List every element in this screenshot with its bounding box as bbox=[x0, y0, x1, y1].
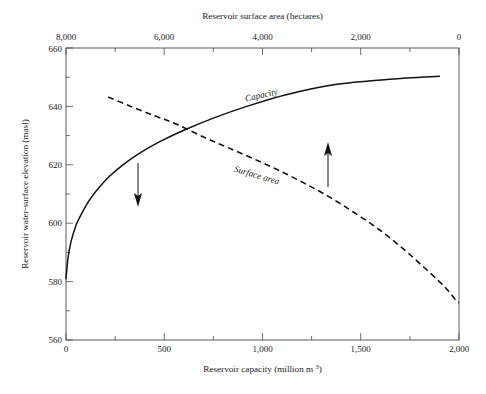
left-tick-label-660: 660 bbox=[49, 44, 63, 54]
left-tick-label-560: 560 bbox=[49, 335, 63, 345]
bottom-axis-title-text: Reservoir capacity (million m bbox=[203, 364, 313, 374]
top-tick-label-2000: 2,000 bbox=[351, 32, 372, 42]
bottom-tick-label-1000: 1,000 bbox=[252, 344, 273, 354]
top-tick-label-4000: 4,000 bbox=[252, 32, 273, 42]
reservoir-capacity-chart: 8,000 6,000 4,000 2,000 0 Reservoir surf… bbox=[0, 0, 486, 394]
top-tick-label-0: 0 bbox=[457, 32, 462, 42]
surface-area-up-arrow bbox=[324, 142, 332, 187]
surface-area-curve-label: Surface area bbox=[233, 164, 281, 187]
bottom-tick-label-1500: 1,500 bbox=[351, 344, 372, 354]
bottom-tick-label-2000: 2,000 bbox=[449, 344, 470, 354]
bottom-tick-label-500: 500 bbox=[157, 344, 171, 354]
left-tick-label-640: 640 bbox=[49, 102, 63, 112]
capacity-down-arrow bbox=[134, 163, 142, 207]
top-tick-label-6000: 6,000 bbox=[154, 32, 175, 42]
bottom-axis: 0 500 1,000 1,500 2,000 Reservoir capaci… bbox=[64, 333, 470, 374]
bottom-tick-label-0: 0 bbox=[64, 344, 69, 354]
top-tick-label-8000: 8,000 bbox=[56, 32, 77, 42]
left-axis-title: Reservoir water-surface elevation (masl) bbox=[20, 119, 30, 269]
left-tick-label-580: 580 bbox=[49, 277, 63, 287]
left-tick-label-620: 620 bbox=[49, 160, 63, 170]
top-axis-title: Reservoir surface area (hectares) bbox=[202, 11, 323, 21]
surface-area-curve bbox=[108, 97, 459, 303]
left-axis: 560 580 600 620 640 660 Reservoir water-… bbox=[20, 44, 73, 346]
figure-container: 8,000 6,000 4,000 2,000 0 Reservoir surf… bbox=[0, 0, 486, 394]
left-tick-label-600: 600 bbox=[49, 218, 63, 228]
bottom-axis-title: Reservoir capacity (million m 3) bbox=[203, 363, 322, 374]
